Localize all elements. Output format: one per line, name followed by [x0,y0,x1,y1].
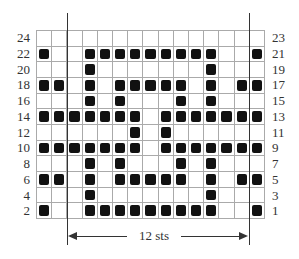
empty-stitch-cell [235,156,250,172]
filled-stitch-cell [52,172,67,188]
empty-stitch-cell [159,62,174,78]
empty-stitch-cell [250,31,265,47]
empty-stitch-cell [52,125,67,141]
empty-stitch-cell [52,31,67,47]
empty-stitch-cell [174,125,189,141]
empty-stitch-cell [143,125,158,141]
filled-stitch-cell [83,62,98,78]
empty-stitch-cell [128,188,143,204]
empty-stitch-cell [159,156,174,172]
filled-stitch-cell [219,109,234,125]
filled-stitch-cell [113,78,128,94]
empty-stitch-cell [189,94,204,110]
filled-stitch-cell [235,141,250,157]
row-label: 24 [4,30,30,46]
empty-stitch-cell [143,188,158,204]
filled-stitch-cell [67,109,82,125]
filled-stitch-cell [235,109,250,125]
empty-stitch-cell [98,156,113,172]
empty-stitch-cell [67,31,82,47]
filled-stitch-cell [143,172,158,188]
filled-stitch-cell [159,109,174,125]
filled-stitch-cell [159,141,174,157]
row-label: 6 [4,172,30,188]
filled-stitch-cell [98,47,113,63]
filled-stitch-cell [204,188,219,204]
row-label: 11 [272,125,298,141]
filled-stitch-cell [235,172,250,188]
row-label: 1 [272,203,298,219]
filled-stitch-cell [113,109,128,125]
empty-stitch-cell [219,125,234,141]
empty-stitch-cell [189,156,204,172]
empty-stitch-cell [235,203,250,219]
filled-stitch-cell [204,172,219,188]
empty-stitch-cell [250,188,265,204]
empty-stitch-cell [219,188,234,204]
empty-stitch-cell [98,31,113,47]
filled-stitch-cell [159,78,174,94]
filled-stitch-cell [113,156,128,172]
empty-stitch-cell [189,31,204,47]
filled-stitch-cell [83,47,98,63]
empty-stitch-cell [52,203,67,219]
empty-stitch-cell [143,62,158,78]
empty-stitch-cell [159,188,174,204]
filled-stitch-cell [67,141,82,157]
filled-stitch-cell [174,109,189,125]
empty-stitch-cell [128,62,143,78]
empty-stitch-cell [98,172,113,188]
filled-stitch-cell [174,141,189,157]
filled-stitch-cell [83,172,98,188]
filled-stitch-cell [189,141,204,157]
empty-stitch-cell [67,125,82,141]
filled-stitch-cell [143,203,158,219]
filled-stitch-cell [250,78,265,94]
filled-stitch-cell [128,109,143,125]
row-label: 13 [272,109,298,125]
filled-stitch-cell [37,109,52,125]
empty-stitch-cell [67,62,82,78]
empty-stitch-cell [67,188,82,204]
empty-stitch-cell [235,125,250,141]
empty-stitch-cell [143,94,158,110]
filled-stitch-cell [204,203,219,219]
empty-stitch-cell [52,62,67,78]
empty-stitch-cell [219,47,234,63]
empty-stitch-cell [143,141,158,157]
row-label: 9 [272,140,298,156]
filled-stitch-cell [159,47,174,63]
empty-stitch-cell [128,31,143,47]
repeat-label: 12 sts [127,228,181,244]
filled-stitch-cell [98,109,113,125]
filled-stitch-cell [113,141,128,157]
row-label: 14 [4,109,30,125]
empty-stitch-cell [52,47,67,63]
filled-stitch-cell [174,203,189,219]
empty-stitch-cell [67,94,82,110]
empty-stitch-cell [250,125,265,141]
filled-stitch-cell [143,78,158,94]
row-label: 5 [272,172,298,188]
row-label: 8 [4,156,30,172]
filled-stitch-cell [219,141,234,157]
filled-stitch-cell [204,94,219,110]
row-label: 17 [272,77,298,93]
empty-stitch-cell [159,31,174,47]
empty-stitch-cell [250,62,265,78]
filled-stitch-cell [83,78,98,94]
filled-stitch-cell [113,203,128,219]
filled-stitch-cell [128,172,143,188]
filled-stitch-cell [83,203,98,219]
filled-stitch-cell [128,203,143,219]
filled-stitch-cell [83,94,98,110]
empty-stitch-cell [98,78,113,94]
filled-stitch-cell [98,141,113,157]
empty-stitch-cell [219,31,234,47]
empty-stitch-cell [37,94,52,110]
empty-stitch-cell [189,78,204,94]
filled-stitch-cell [113,172,128,188]
empty-stitch-cell [37,188,52,204]
empty-stitch-cell [67,78,82,94]
filled-stitch-cell [204,141,219,157]
